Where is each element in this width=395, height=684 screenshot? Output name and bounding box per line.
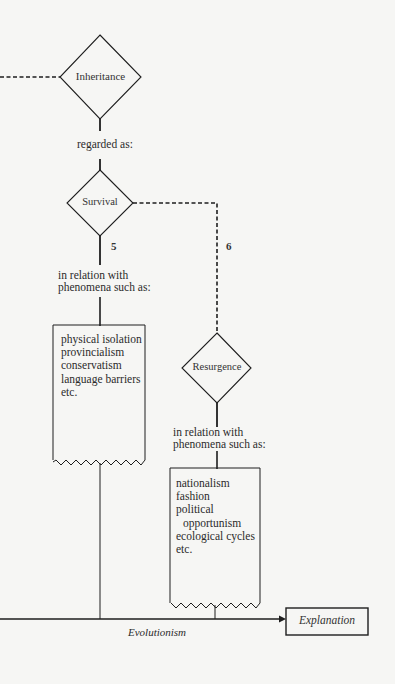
diagram-canvas xyxy=(0,0,395,684)
resurgence-relation-line-2: phenomena such as: xyxy=(173,438,266,450)
branch-6-label: 6 xyxy=(226,240,232,252)
explanation-label: Explanation xyxy=(286,614,368,626)
branch-5-label: 5 xyxy=(111,240,117,252)
arrowhead-icon xyxy=(279,616,286,623)
branch-6-dashed-connector xyxy=(133,203,217,333)
survival-relation-line-2: phenomena such as: xyxy=(58,281,151,293)
list-item: opportunism xyxy=(176,517,255,530)
inheritance-label: Inheritance xyxy=(60,70,141,82)
survival-relation-label: in relation with phenomena such as: xyxy=(58,269,151,293)
evolutionism-label: Evolutionism xyxy=(128,626,186,639)
resurgence-label: Resurgence xyxy=(182,361,252,372)
list-item: etc. xyxy=(61,386,142,399)
list-item: physical isolation xyxy=(61,333,142,346)
resurgence-phenomena-list: nationalism fashion political opportunis… xyxy=(176,477,255,556)
list-item: political xyxy=(176,503,255,516)
resurgence-relation-label: in relation with phenomena such as: xyxy=(173,426,266,450)
survival-phenomena-list: physical isolation provincialism conserv… xyxy=(61,333,142,399)
list-item: etc. xyxy=(176,543,255,556)
list-item: language barriers xyxy=(61,373,142,386)
list-item: nationalism xyxy=(176,477,255,490)
regarded-as-label: regarded as: xyxy=(77,138,133,151)
list-item: fashion xyxy=(176,490,255,503)
list-item: provincialism xyxy=(61,346,142,359)
resurgence-relation-line-1: in relation with xyxy=(173,426,266,438)
survival-label: Survival xyxy=(67,196,133,207)
list-item: ecological cycles xyxy=(176,530,255,543)
survival-relation-line-1: in relation with xyxy=(58,269,151,281)
list-item: conservatism xyxy=(61,359,142,372)
